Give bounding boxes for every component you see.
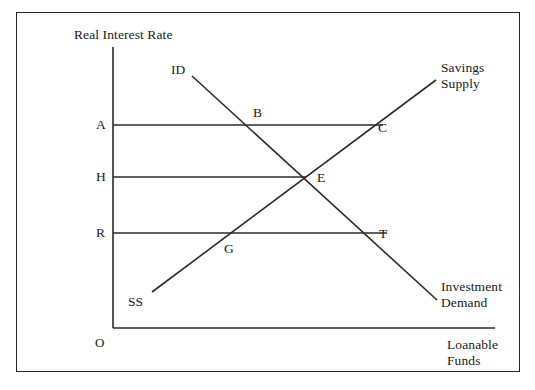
point-label-t: T — [379, 226, 387, 241]
rate-label-r: R — [96, 225, 105, 240]
rate-label-h: H — [96, 169, 106, 184]
investment-demand-label-line1: Investment — [441, 279, 502, 295]
investment-demand-short-label: ID — [171, 62, 185, 77]
diagram-lines — [0, 0, 535, 390]
point-label-b: B — [253, 105, 262, 120]
savings-supply-short-label: SS — [128, 294, 143, 309]
x-axis-title-line2: Funds — [447, 353, 481, 369]
point-label-c: C — [378, 120, 387, 135]
point-label-e: E — [317, 170, 325, 185]
y-axis-title: Real Interest Rate — [74, 27, 173, 42]
diagram-canvas: Real Interest Rate Loanable Funds O A H … — [0, 0, 535, 390]
savings-supply-label-line2: Supply — [441, 76, 480, 92]
savings-supply-label-line1: Savings — [441, 60, 484, 76]
x-axis-title-line1: Loanable — [447, 337, 498, 353]
investment-demand-label-line2: Demand — [441, 295, 487, 311]
rate-label-a: A — [96, 117, 106, 132]
investment-demand-curve — [192, 76, 437, 300]
point-label-g: G — [224, 241, 234, 256]
origin-label: O — [95, 335, 105, 350]
